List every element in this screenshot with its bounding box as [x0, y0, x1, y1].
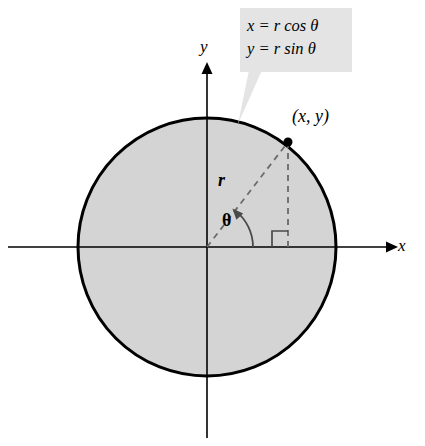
- theta-label: θ: [222, 211, 231, 229]
- point-marker: [284, 138, 293, 147]
- y-axis-arrowhead: [202, 62, 213, 74]
- point-label: (x, y): [292, 107, 329, 125]
- diagram-canvas: [0, 0, 425, 446]
- equation-x: x = r cos θ: [247, 15, 318, 38]
- callout-tail: [238, 70, 262, 124]
- x-axis-label: x: [398, 237, 406, 254]
- x-axis-arrowhead: [386, 242, 398, 253]
- callout-equations: x = r cos θ y = r sin θ: [247, 15, 318, 61]
- y-axis-label: y: [200, 38, 208, 55]
- equation-y: y = r sin θ: [247, 38, 318, 61]
- radius-label: r: [218, 171, 225, 189]
- polar-coordinate-diagram: x = r cos θ y = r sin θ x y (x, y) r θ: [0, 0, 425, 446]
